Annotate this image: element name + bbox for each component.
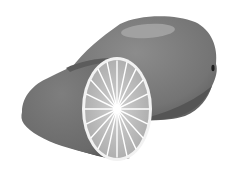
lemon-graphic xyxy=(0,0,234,181)
lemon-tip-icon xyxy=(211,65,214,71)
lemon-cross-section xyxy=(82,57,152,161)
lemon-illustration: Lemon with cut half xyxy=(0,0,234,181)
lemon-core xyxy=(113,104,121,114)
